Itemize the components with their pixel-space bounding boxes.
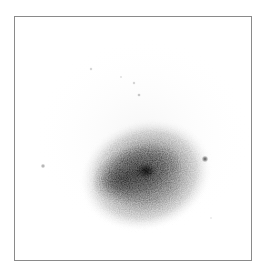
speck-5 — [210, 217, 212, 219]
galaxy-core — [135, 163, 157, 179]
image-frame — [14, 16, 252, 261]
speck-3 — [133, 82, 135, 84]
star-left — [41, 164, 46, 169]
speck-4 — [138, 94, 141, 97]
star-right — [202, 156, 209, 163]
galaxy-image — [15, 17, 251, 260]
speck-1 — [90, 68, 92, 70]
speck-2 — [120, 76, 122, 78]
